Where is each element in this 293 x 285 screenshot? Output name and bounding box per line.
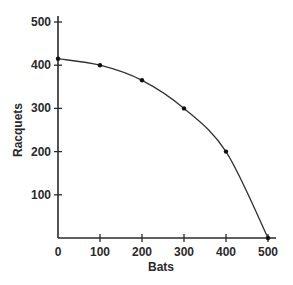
data-points xyxy=(56,57,270,241)
y-tick-label: 200 xyxy=(31,145,51,159)
chart: 100200300400500 0100200300400500 Bats Ra… xyxy=(0,0,293,285)
x-tick-label: 500 xyxy=(258,245,278,259)
data-point xyxy=(266,236,270,240)
data-point xyxy=(182,106,186,110)
data-point xyxy=(56,57,60,61)
y-tick-label: 400 xyxy=(31,58,51,72)
y-tick-label: 300 xyxy=(31,101,51,115)
y-tick-label: 100 xyxy=(31,188,51,202)
x-axis-label: Bats xyxy=(148,260,174,274)
x-tick-label: 200 xyxy=(132,245,152,259)
x-tick-label: 0 xyxy=(55,245,62,259)
x-tick-label: 400 xyxy=(216,245,236,259)
x-tick-label: 300 xyxy=(174,245,194,259)
data-point xyxy=(224,149,228,153)
x-tick-label: 100 xyxy=(90,245,110,259)
y-axis-label: Racquets xyxy=(11,103,25,157)
data-point xyxy=(140,78,144,82)
data-point xyxy=(98,63,102,67)
y-tick-label: 500 xyxy=(31,15,51,29)
ppf-curve xyxy=(58,59,268,238)
